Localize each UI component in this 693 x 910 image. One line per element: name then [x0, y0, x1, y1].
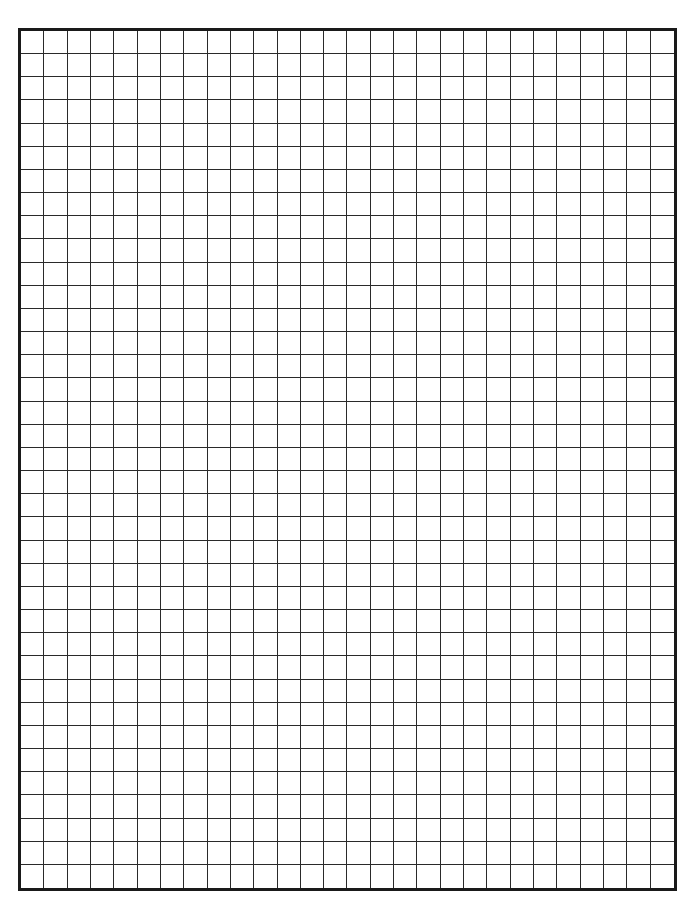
- grid-cell: [114, 749, 137, 772]
- grid-cell: [301, 147, 324, 170]
- grid-cell: [441, 124, 464, 147]
- grid-cell: [114, 819, 137, 842]
- grid-cell: [627, 656, 650, 679]
- grid-cell: [511, 703, 534, 726]
- grid-cell: [278, 564, 301, 587]
- grid-cell: [581, 147, 604, 170]
- grid-cell: [394, 100, 417, 123]
- grid-cell: [371, 124, 394, 147]
- grid-cell: [534, 564, 557, 587]
- grid-cell: [627, 772, 650, 795]
- grid-cell: [581, 610, 604, 633]
- grid-cell: [254, 471, 277, 494]
- grid-cell: [208, 517, 231, 540]
- grid-cell: [208, 680, 231, 703]
- grid-cell: [21, 147, 44, 170]
- grid-cell: [138, 656, 161, 679]
- grid-cell: [347, 865, 370, 888]
- grid-cell: [394, 77, 417, 100]
- grid-cell: [301, 402, 324, 425]
- grid-cell: [487, 355, 510, 378]
- grid-cell: [487, 54, 510, 77]
- grid-cell: [651, 564, 674, 587]
- grid-cell: [604, 309, 627, 332]
- grid-cell: [184, 448, 207, 471]
- grid-cell: [161, 309, 184, 332]
- grid-cell: [417, 633, 440, 656]
- grid-cell: [394, 680, 417, 703]
- grid-cell: [534, 633, 557, 656]
- grid-cell: [371, 564, 394, 587]
- grid-cell: [161, 448, 184, 471]
- grid-cell: [604, 680, 627, 703]
- grid-cell: [604, 819, 627, 842]
- grid-cell: [417, 541, 440, 564]
- grid-cell: [91, 772, 114, 795]
- grid-cell: [254, 587, 277, 610]
- grid-cell: [604, 332, 627, 355]
- grid-cell: [301, 170, 324, 193]
- grid-cell: [441, 795, 464, 818]
- grid-cell: [581, 680, 604, 703]
- grid-cell: [278, 819, 301, 842]
- grid-cell: [651, 170, 674, 193]
- grid-cell: [347, 517, 370, 540]
- grid-cell: [21, 564, 44, 587]
- grid-cell: [138, 193, 161, 216]
- grid-cell: [208, 239, 231, 262]
- grid-cell: [464, 541, 487, 564]
- grid-cell: [487, 865, 510, 888]
- grid-cell: [91, 795, 114, 818]
- grid-cell: [231, 494, 254, 517]
- grid-cell: [254, 772, 277, 795]
- grid-cell: [487, 309, 510, 332]
- grid-cell: [347, 286, 370, 309]
- grid-cell: [534, 193, 557, 216]
- grid-cell: [534, 170, 557, 193]
- grid-cell: [394, 656, 417, 679]
- grid-cell: [651, 703, 674, 726]
- grid-cell: [254, 842, 277, 865]
- grid-cell: [68, 378, 91, 401]
- grid-cell: [114, 124, 137, 147]
- grid-cell: [464, 31, 487, 54]
- grid-cell: [534, 147, 557, 170]
- grid-cell: [627, 239, 650, 262]
- grid-cell: [557, 610, 580, 633]
- grid-cell: [324, 77, 347, 100]
- grid-cell: [44, 239, 67, 262]
- grid-cell: [21, 286, 44, 309]
- grid-cell: [511, 633, 534, 656]
- grid-cell: [394, 309, 417, 332]
- grid-cell: [114, 865, 137, 888]
- grid-cell: [464, 587, 487, 610]
- grid-cell: [138, 680, 161, 703]
- grid-cell: [627, 378, 650, 401]
- grid-cell: [44, 795, 67, 818]
- grid-cell: [161, 656, 184, 679]
- grid-cell: [278, 680, 301, 703]
- grid-cell: [417, 193, 440, 216]
- grid-cell: [511, 124, 534, 147]
- grid-cell: [301, 216, 324, 239]
- grid-cell: [604, 54, 627, 77]
- grid-cell: [44, 309, 67, 332]
- grid-cell: [278, 31, 301, 54]
- grid-cell: [254, 124, 277, 147]
- grid-cell: [324, 378, 347, 401]
- grid-cell: [208, 587, 231, 610]
- grid-cell: [651, 31, 674, 54]
- grid-cell: [44, 633, 67, 656]
- grid-cell: [417, 31, 440, 54]
- grid-cell: [464, 355, 487, 378]
- grid-cell: [44, 819, 67, 842]
- grid-cell: [21, 100, 44, 123]
- grid-cell: [511, 216, 534, 239]
- grid-cell: [278, 448, 301, 471]
- grid-cell: [417, 309, 440, 332]
- grid-cell: [464, 147, 487, 170]
- grid-cell: [371, 263, 394, 286]
- grid-cell: [114, 332, 137, 355]
- grid-cell: [604, 124, 627, 147]
- grid-cell: [627, 263, 650, 286]
